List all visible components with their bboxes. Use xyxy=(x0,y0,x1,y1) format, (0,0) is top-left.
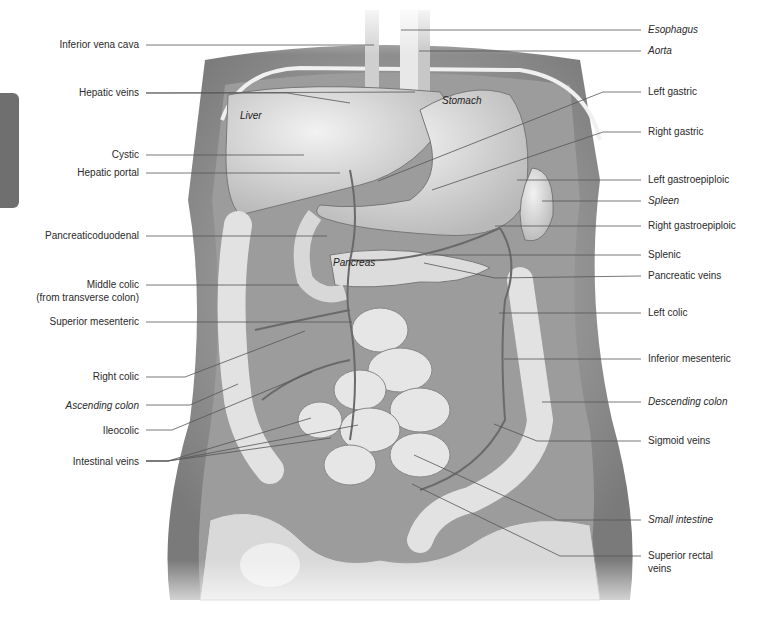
label-right-gastroepiploic: Right gastroepiploic xyxy=(648,220,736,232)
organ-label-stomach: Stomach xyxy=(442,95,481,106)
label-spleen: Spleen xyxy=(648,195,679,207)
label-inferior-vena-cava: Inferior vena cava xyxy=(60,39,140,51)
label-cystic: Cystic xyxy=(112,149,139,161)
label-superior-rectal: Superior rectal xyxy=(648,550,713,562)
label-superior-rectal-veins: veins xyxy=(648,563,671,575)
label-ileocolic: Ileocolic xyxy=(103,425,139,437)
organ-label-pancreas: Pancreas xyxy=(333,257,375,268)
label-descending-colon: Descending colon xyxy=(648,396,728,408)
label-left-colic: Left colic xyxy=(648,307,687,319)
label-pancreaticoduodenal: Pancreaticoduodenal xyxy=(45,230,139,242)
label-inferior-mesenteric: Inferior mesenteric xyxy=(648,353,731,365)
label-superior-mesenteric: Superior mesenteric xyxy=(50,316,139,328)
label-small-intestine: Small intestine xyxy=(648,514,713,526)
label-right-gastric: Right gastric xyxy=(648,126,704,138)
label-sigmoid-veins: Sigmoid veins xyxy=(648,435,710,447)
label-right-colic: Right colic xyxy=(93,371,139,383)
label-splenic: Splenic xyxy=(648,249,681,261)
label-middle-colic-note: (from transverse colon) xyxy=(36,292,139,304)
label-pancreatic-veins: Pancreatic veins xyxy=(648,270,721,282)
anatomy-figure: Liver Stomach Pancreas Inferior vena cav… xyxy=(0,0,761,620)
label-esophagus: Esophagus xyxy=(648,24,698,36)
organ-label-liver: Liver xyxy=(240,110,262,121)
label-left-gastric: Left gastric xyxy=(648,86,697,98)
label-left-gastroepiploic: Left gastroepiploic xyxy=(648,174,729,186)
label-middle-colic: Middle colic xyxy=(87,279,139,291)
label-intestinal-veins: Intestinal veins xyxy=(73,456,139,468)
label-ascending-colon: Ascending colon xyxy=(66,400,139,412)
label-hepatic-veins: Hepatic veins xyxy=(79,87,139,99)
label-aorta: Aorta xyxy=(648,45,672,57)
label-hepatic-portal: Hepatic portal xyxy=(77,167,139,179)
